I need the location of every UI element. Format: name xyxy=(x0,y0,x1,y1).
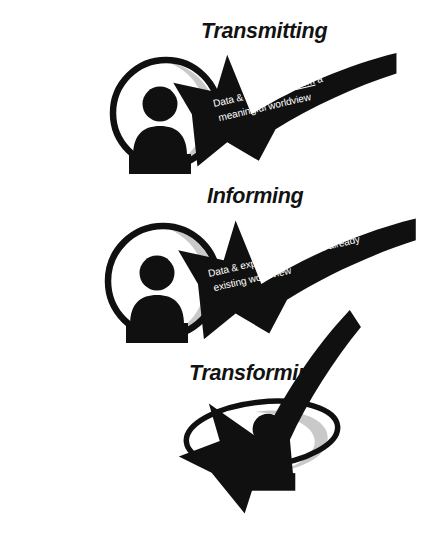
panel-transforming: Transforming Data & experience alter an … xyxy=(43,310,412,527)
person-silhouette-2 xyxy=(126,256,188,344)
arrow-label-line1: Data & experience alter an already xyxy=(43,409,190,474)
panel-transmitting: Transmitting Data & experience form a me… xyxy=(113,19,396,174)
panel-title-transmitting: Transmitting xyxy=(201,19,327,43)
swoosh-arrow-transmitting xyxy=(173,53,396,166)
panel-title-informing: Informing xyxy=(207,184,304,208)
panel-informing: Informing Data & experience enter an alr… xyxy=(108,184,416,343)
worldview-diagram: Transmitting Data & experience form a me… xyxy=(0,0,434,538)
person-silhouette-1 xyxy=(129,87,191,175)
arrow-label-transforming: Data & experience alter an already exist… xyxy=(43,409,195,488)
swoosh-arrow-informing xyxy=(178,219,416,340)
